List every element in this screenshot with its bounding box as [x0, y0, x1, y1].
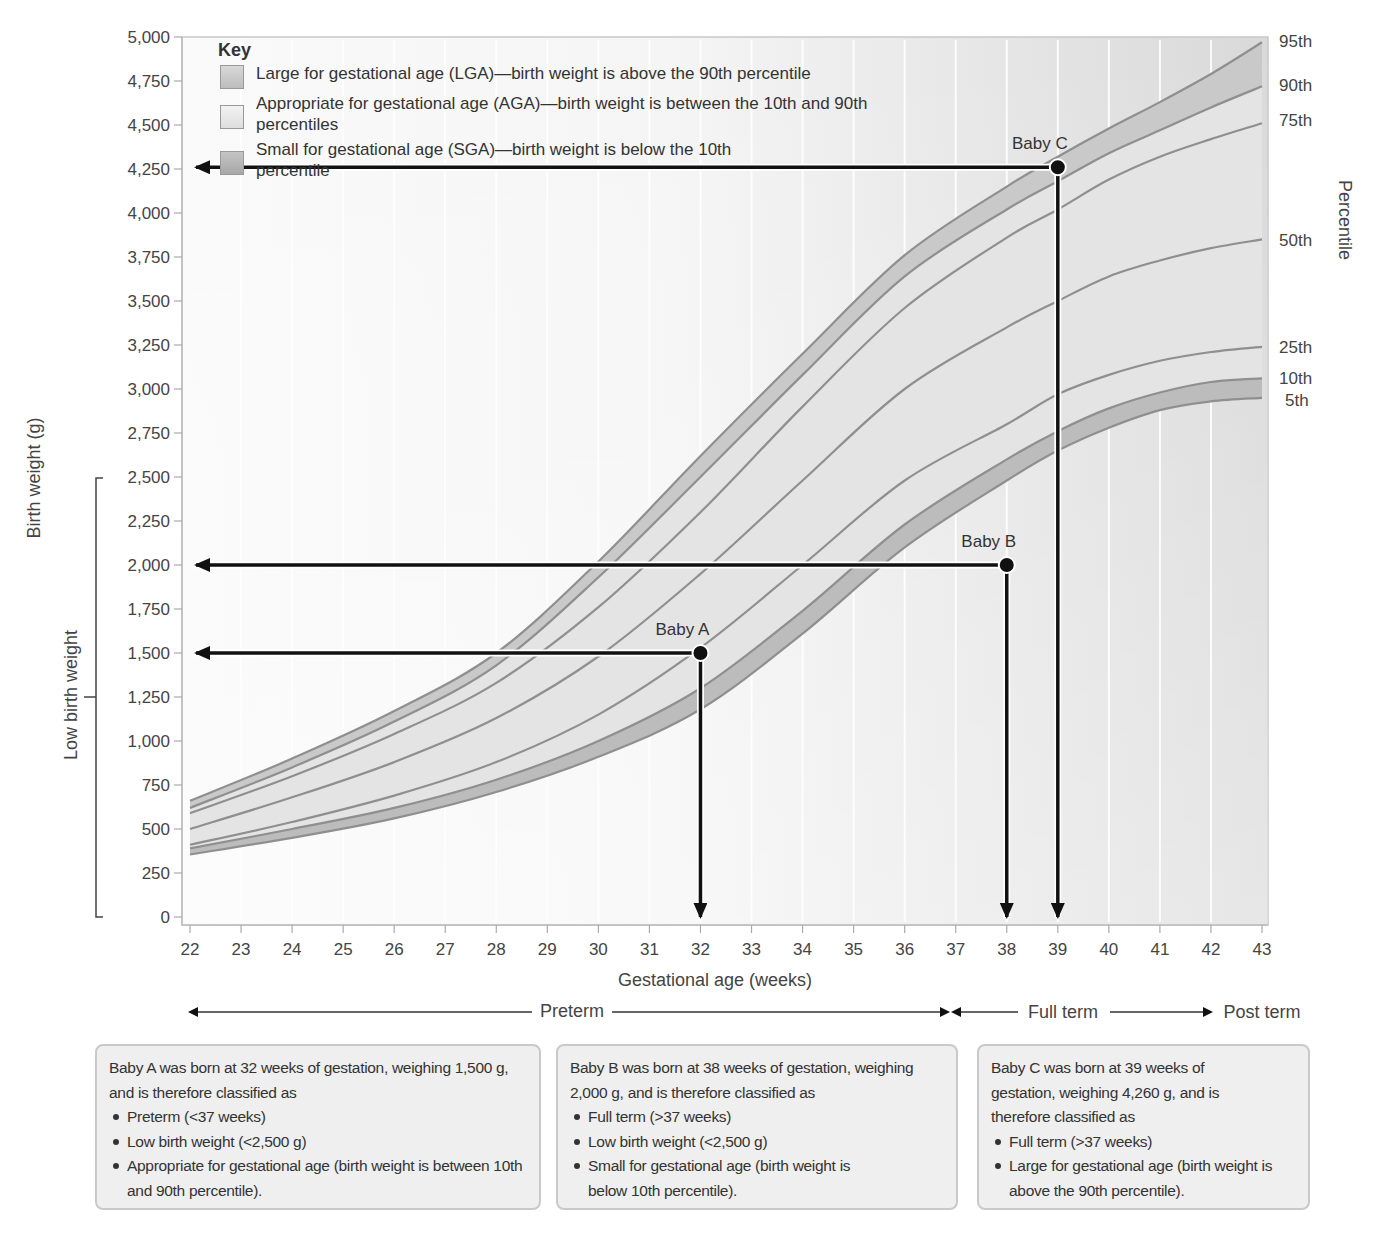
sga-swatch	[220, 151, 244, 175]
legend-label: Large for gestational age (LGA)—birth we…	[256, 63, 956, 84]
y-tick-label: 1,250	[127, 688, 170, 707]
post-term-label: Post term	[1223, 1002, 1300, 1022]
legend-item-aga: Appropriate for gestational age (AGA)—bi…	[218, 93, 956, 135]
y-tick-label: 2,750	[127, 424, 170, 443]
x-tick-label: 30	[589, 940, 608, 959]
info-bullet: Small for gestational age (birth weight …	[570, 1154, 868, 1203]
x-tick-label: 34	[793, 940, 812, 959]
y-tick-label: 1,000	[127, 732, 170, 751]
baby-point	[999, 557, 1015, 573]
aga-swatch	[220, 105, 244, 129]
x-tick-label: 24	[283, 940, 302, 959]
baby-point	[1050, 159, 1066, 175]
baby-label: Baby B	[961, 532, 1016, 551]
legend-item-lga: Large for gestational age (LGA)—birth we…	[218, 63, 956, 89]
x-tick-label: 43	[1253, 940, 1272, 959]
y-axis: 02505007501,0001,2501,5001,7502,0002,250…	[127, 28, 182, 927]
percentile-label-50th: 50th	[1279, 231, 1312, 250]
y-tick-label: 250	[142, 864, 170, 883]
info-box-baby-c: Baby C was born at 39 weeks of gestation…	[977, 1044, 1310, 1210]
x-tick-label: 38	[997, 940, 1016, 959]
y-tick-label: 1,750	[127, 600, 170, 619]
y-tick-label: 4,250	[127, 160, 170, 179]
legend-label: Appropriate for gestational age (AGA)—bi…	[256, 93, 896, 135]
x-tick-label: 32	[691, 940, 710, 959]
y-tick-label: 2,000	[127, 556, 170, 575]
percentile-label-25th: 25th	[1279, 338, 1312, 357]
full-term-label: Full term	[1028, 1002, 1098, 1022]
x-tick-label: 42	[1201, 940, 1220, 959]
x-tick-label: 23	[232, 940, 251, 959]
x-tick-label: 22	[181, 940, 200, 959]
percentile-label-75th: 75th	[1279, 111, 1312, 130]
y-tick-label: 4,000	[127, 204, 170, 223]
legend-title: Key	[218, 40, 956, 61]
right-axis-title: Percentile	[1335, 180, 1355, 260]
y-tick-label: 3,000	[127, 380, 170, 399]
info-bullet: Appropriate for gestational age (birth w…	[109, 1154, 527, 1203]
x-tick-label: 28	[487, 940, 506, 959]
y-tick-label: 4,500	[127, 116, 170, 135]
y-axis-title: Birth weight (g)	[24, 417, 44, 538]
percentile-label-5th: 5th	[1285, 391, 1309, 410]
x-tick-label: 39	[1048, 940, 1067, 959]
y-tick-label: 2,250	[127, 512, 170, 531]
x-axis-title: Gestational age (weeks)	[618, 970, 812, 990]
lga-swatch	[220, 65, 244, 89]
low-birth-weight-label: Low birth weight	[61, 630, 81, 760]
baby-label: Baby C	[1012, 134, 1068, 153]
info-intro: Baby B was born at 38 weeks of gestation…	[570, 1056, 950, 1105]
y-tick-label: 0	[161, 908, 170, 927]
y-tick-label: 750	[142, 776, 170, 795]
x-tick-label: 27	[436, 940, 455, 959]
legend-item-sga: Small for gestational age (SGA)—birth we…	[218, 139, 956, 181]
y-tick-label: 1,500	[127, 644, 170, 663]
x-tick-label: 40	[1099, 940, 1118, 959]
x-axis: 2223242526272829303132333435363738394041…	[181, 925, 1272, 959]
percentile-labels: 95th90th75th50th25th10th5th	[1279, 32, 1312, 410]
legend-label: Small for gestational age (SGA)—birth we…	[256, 139, 776, 181]
y-tick-label: 2,500	[127, 468, 170, 487]
term-ranges: Preterm Full term Post term	[190, 1001, 1301, 1022]
y-tick-label: 3,750	[127, 248, 170, 267]
y-tick-label: 5,000	[127, 28, 170, 47]
info-bullet: Preterm (<37 weeks)	[109, 1105, 527, 1130]
x-tick-label: 36	[895, 940, 914, 959]
percentile-label-90th: 90th	[1279, 76, 1312, 95]
y-tick-label: 3,250	[127, 336, 170, 355]
info-bullet: Full term (>37 weeks)	[570, 1105, 944, 1130]
x-tick-label: 35	[844, 940, 863, 959]
y-tick-label: 500	[142, 820, 170, 839]
x-tick-label: 29	[538, 940, 557, 959]
percentile-label-95th: 95th	[1279, 32, 1312, 51]
info-bullet: Low birth weight (<2,500 g)	[109, 1130, 527, 1155]
info-intro: Baby C was born at 39 weeks of gestation…	[991, 1056, 1231, 1130]
x-tick-label: 33	[742, 940, 761, 959]
percentile-label-10th: 10th	[1279, 369, 1312, 388]
y-tick-label: 3,500	[127, 292, 170, 311]
baby-label: Baby A	[656, 620, 711, 639]
legend: Key Large for gestational age (LGA)—birt…	[218, 40, 956, 185]
info-bullet: Large for gestational age (birth weight …	[991, 1154, 1299, 1203]
x-tick-label: 37	[946, 940, 965, 959]
info-box-baby-b: Baby B was born at 38 weeks of gestation…	[556, 1044, 958, 1210]
baby-point	[692, 645, 708, 661]
info-bullet: Full term (>37 weeks)	[991, 1130, 1296, 1155]
x-tick-label: 25	[334, 940, 353, 959]
preterm-label: Preterm	[540, 1001, 604, 1021]
x-tick-label: 41	[1150, 940, 1169, 959]
info-box-baby-a: Baby A was born at 32 weeks of gestation…	[95, 1044, 541, 1210]
x-tick-label: 26	[385, 940, 404, 959]
x-tick-label: 31	[640, 940, 659, 959]
y-tick-label: 4,750	[127, 72, 170, 91]
info-intro: Baby A was born at 32 weeks of gestation…	[109, 1056, 509, 1105]
info-bullet: Low birth weight (<2,500 g)	[570, 1130, 944, 1155]
low-birth-weight-bracket	[84, 478, 103, 917]
